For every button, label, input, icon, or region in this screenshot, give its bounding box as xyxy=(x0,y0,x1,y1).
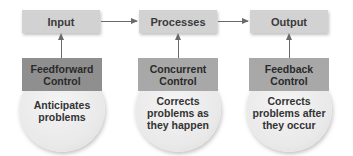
output-box: Output xyxy=(250,10,328,33)
arrow-feedback-to-output-icon xyxy=(289,35,290,58)
concurrent-title-line1: Concurrent xyxy=(150,63,207,75)
feedback-desc-line1: Corrects xyxy=(244,95,334,107)
feedforward-desc-line1: Anticipates xyxy=(17,99,107,111)
input-label: Input xyxy=(48,16,75,28)
arrow-feedforward-to-input-icon xyxy=(61,35,62,58)
feedforward-description: Anticipates problems xyxy=(17,99,107,123)
feedforward-control-header: Feedforward Control xyxy=(22,58,102,91)
output-label: Output xyxy=(271,16,307,28)
concurrent-title-line2: Control xyxy=(150,75,207,87)
control-types-diagram: Input Processes Output Feedforward Contr… xyxy=(0,0,353,156)
feedback-title-line2: Control xyxy=(265,75,313,87)
arrow-concurrent-to-processes-icon xyxy=(178,35,179,58)
feedback-title-line1: Feedback xyxy=(265,63,313,75)
concurrent-control-header: Concurrent Control xyxy=(138,58,218,91)
concurrent-desc-line2: problems as xyxy=(133,107,223,119)
feedforward-desc-line2: problems xyxy=(17,111,107,123)
concurrent-desc-line3: they happen xyxy=(133,119,223,131)
processes-label: Processes xyxy=(150,16,205,28)
feedforward-title-line1: Feedforward xyxy=(30,63,93,75)
feedback-control-header: Feedback Control xyxy=(249,58,329,91)
feedback-desc-line2: problems after xyxy=(244,107,334,119)
arrow-input-to-processes-icon xyxy=(101,21,137,22)
concurrent-desc-line1: Corrects xyxy=(133,95,223,107)
feedforward-title-line2: Control xyxy=(30,75,93,87)
feedback-desc-line3: they occur xyxy=(244,119,334,131)
arrow-processes-to-output-icon xyxy=(218,21,248,22)
input-box: Input xyxy=(22,10,100,33)
processes-box: Processes xyxy=(139,10,217,33)
feedback-description: Corrects problems after they occur xyxy=(244,95,334,131)
concurrent-description: Corrects problems as they happen xyxy=(133,95,223,131)
